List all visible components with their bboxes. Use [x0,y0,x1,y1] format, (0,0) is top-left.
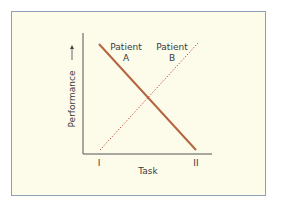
x-tick-label-1: I [98,158,101,168]
patient-a-label-line2: A [123,53,130,63]
series-patient-b-line [100,43,198,150]
patient-b-label-line1: Patient [156,42,188,52]
x-tick-label-2: II [193,158,198,168]
series-patient-a-line [99,44,196,150]
y-axis-label: Performance [67,70,77,127]
patient-b-label-line2: B [169,53,175,63]
y-axis-arrow-icon [70,45,74,60]
chart: Patient A Patient B I II Task Performanc… [0,0,282,212]
patient-a-label-line1: Patient [110,42,142,52]
x-axis-label: Task [137,166,158,176]
